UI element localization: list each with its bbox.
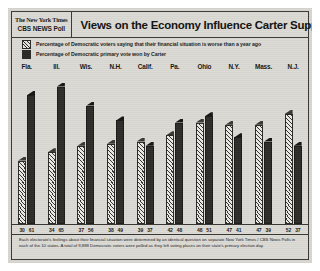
bar-body bbox=[146, 146, 154, 224]
bar-body bbox=[264, 142, 272, 224]
bar-body bbox=[175, 123, 183, 224]
bar-solid-pa bbox=[175, 123, 183, 224]
bar-solid-nh bbox=[116, 120, 124, 224]
bar-group bbox=[71, 72, 101, 224]
category-label-ohio: Ohio bbox=[190, 61, 220, 72]
bar-group bbox=[160, 72, 190, 224]
chart-title: Views on the Economy Influence Carter Su… bbox=[72, 12, 312, 37]
bar-solid-mass bbox=[264, 142, 272, 224]
category-label-ill: Ill. bbox=[42, 61, 72, 72]
nyt-masthead: The New York Times bbox=[15, 16, 67, 24]
bar-hatch-mass bbox=[255, 125, 263, 224]
bar-body bbox=[48, 152, 56, 224]
bar-body bbox=[86, 106, 94, 224]
bar-group bbox=[190, 72, 220, 224]
bar-group bbox=[278, 72, 308, 224]
hatched-swatch-icon bbox=[22, 40, 31, 49]
bar-hatch-ny bbox=[225, 125, 233, 224]
bar-body bbox=[18, 161, 26, 224]
chart-frame: The New York Times CBS NEWS Poll Views o… bbox=[11, 11, 309, 260]
bar-solid-ny bbox=[234, 137, 242, 224]
bar-body bbox=[137, 142, 145, 224]
bar-body bbox=[196, 123, 204, 224]
cbs-news-poll-label: CBS NEWS Poll bbox=[18, 24, 65, 33]
chart-legend: Percentage of Democratic voters saying t… bbox=[12, 37, 308, 61]
bar-hatch-nh bbox=[107, 144, 115, 224]
bar-body bbox=[77, 146, 85, 224]
bar-body bbox=[294, 146, 302, 224]
bar-body bbox=[27, 95, 35, 224]
bar-group bbox=[219, 72, 249, 224]
category-axis-labels: Fla.Ill.Wis.N.H.Calif.Pa.OhioN.Y.Mass.N.… bbox=[12, 61, 308, 72]
category-label-ny: N.Y. bbox=[219, 61, 249, 72]
bar-solid-wis bbox=[86, 106, 94, 224]
bar-solid-nj bbox=[294, 146, 302, 224]
bar-hatch-ohio bbox=[196, 123, 204, 224]
bar-body bbox=[225, 125, 233, 224]
bar-group bbox=[42, 72, 72, 224]
bar-hatch-wis bbox=[77, 146, 85, 224]
bar-body bbox=[205, 116, 213, 224]
bar-body bbox=[234, 137, 242, 224]
category-label-wis: Wis. bbox=[71, 61, 101, 72]
bar-solid-ill bbox=[57, 87, 65, 224]
bar-body bbox=[285, 114, 293, 224]
poll-logo: The New York Times CBS NEWS Poll bbox=[12, 12, 72, 37]
legend-label: Percentage of Democratic voters saying t… bbox=[36, 40, 261, 49]
bar-hatch-pa bbox=[166, 135, 174, 224]
bar-plot-area bbox=[12, 72, 308, 224]
chart-header: The New York Times CBS NEWS Poll Views o… bbox=[12, 12, 308, 38]
scanned-page: The New York Times CBS NEWS Poll Views o… bbox=[8, 8, 312, 263]
bar-hatch-ill bbox=[48, 152, 56, 224]
bar-hatch-nj bbox=[285, 114, 293, 224]
legend-label: Percentage of Democratic primary vote wo… bbox=[36, 50, 166, 59]
bar-body bbox=[107, 144, 115, 224]
bar-solid-ohio bbox=[205, 116, 213, 224]
category-label-pa: Pa. bbox=[160, 61, 190, 72]
bar-solid-fla bbox=[27, 95, 35, 224]
bar-group bbox=[130, 72, 160, 224]
bar-hatch-fla bbox=[18, 161, 26, 224]
bar-body bbox=[57, 87, 65, 224]
category-label-calif: Calif. bbox=[130, 61, 160, 72]
category-label-fla: Fla. bbox=[12, 61, 42, 72]
legend-item: Percentage of Democratic voters saying t… bbox=[22, 40, 308, 49]
category-label-nh: N.H. bbox=[101, 61, 131, 72]
bar-hatch-calif bbox=[137, 142, 145, 224]
legend-item: Percentage of Democratic primary vote wo… bbox=[22, 50, 308, 59]
chart-footnote: Each electorate's feelings about their f… bbox=[12, 234, 308, 259]
category-label-nj: N.J. bbox=[278, 61, 308, 72]
bar-group bbox=[12, 72, 42, 224]
bar-group bbox=[101, 72, 131, 224]
solid-swatch-icon bbox=[22, 50, 31, 59]
bar-body bbox=[116, 120, 124, 224]
category-label-mass: Mass. bbox=[249, 61, 279, 72]
bar-group bbox=[249, 72, 279, 224]
bar-body bbox=[255, 125, 263, 224]
bar-body bbox=[166, 135, 174, 224]
bar-solid-calif bbox=[146, 146, 154, 224]
